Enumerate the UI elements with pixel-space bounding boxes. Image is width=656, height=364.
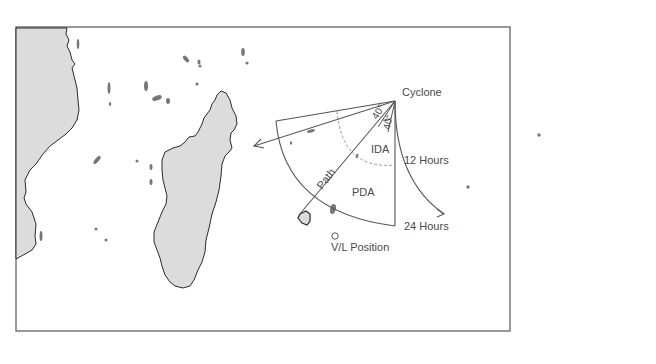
ida-label: IDA <box>371 143 390 155</box>
cyclone-label: Cyclone <box>402 86 442 98</box>
twelve-hours-label: 12 Hours <box>404 154 449 166</box>
twenty-four-hours-label: 24 Hours <box>404 220 449 232</box>
pda-label: PDA <box>352 186 375 198</box>
vl-position-marker <box>332 233 338 239</box>
vl-position-label: V/L Position <box>331 241 389 253</box>
cyclone-avoidance-diagram: Cyclone IDA PDA 12 Hours 24 Hours V/L Po… <box>0 0 656 364</box>
map-frame <box>16 27 510 331</box>
